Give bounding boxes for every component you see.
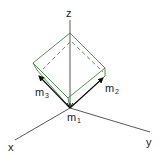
label-m2: m 2 [105, 82, 119, 95]
label-m3: m 3 [35, 86, 49, 99]
y-axis [70, 108, 150, 132]
y-axis-label: y [146, 136, 152, 148]
label-m3-base: m [35, 86, 44, 98]
cube-edge [70, 33, 105, 68]
x-axis-label: x [8, 141, 14, 153]
cube-hidden-edge [43, 42, 70, 69]
label-m1-base: m [67, 111, 76, 123]
coordinate-cube-diagram: z x y m 3 m 2 m 1 [0, 0, 163, 158]
label-m1: m 1 [67, 111, 81, 124]
label-m2-base: m [105, 82, 114, 94]
label-m1-sub: 1 [77, 117, 81, 124]
axes [15, 20, 150, 140]
z-axis-label: z [66, 7, 72, 19]
label-m2-sub: 2 [115, 88, 119, 95]
cube-hidden-edge [72, 42, 103, 72]
label-m3-sub: 3 [45, 92, 49, 99]
x-axis [15, 108, 70, 140]
